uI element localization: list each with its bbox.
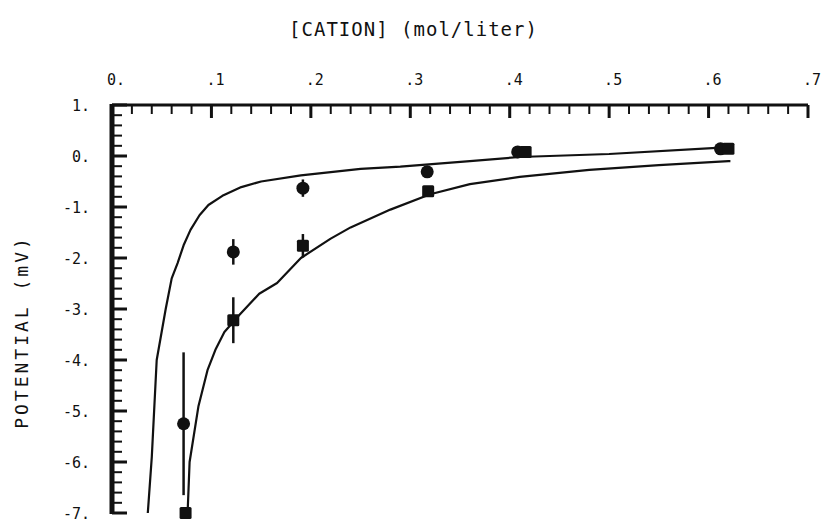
square-marker	[227, 314, 239, 326]
y-tick-label: 1.	[72, 97, 90, 115]
axes	[112, 104, 808, 514]
circle-marker	[177, 417, 190, 430]
x-tick-label: .4	[505, 71, 523, 89]
x-tick-label: .1	[206, 71, 224, 89]
circle-marker	[227, 245, 240, 258]
square-marker	[722, 143, 734, 155]
y-tick-label: -5.	[63, 403, 90, 421]
x-tick-label: .5	[604, 71, 622, 89]
y-tick-label: -1.	[63, 199, 90, 217]
square-marker	[180, 507, 192, 519]
x-tick-label: 0.	[107, 71, 125, 89]
y-tick-label: -4.	[63, 352, 90, 370]
y-tick-label: -2.	[63, 250, 90, 268]
circle-marker	[296, 182, 309, 195]
square-marker	[520, 146, 532, 158]
y-tick-label: -6.	[63, 454, 90, 472]
y-tick-labels: 1.0.-1.-2.-3.-4.-5.-6.-7.	[63, 97, 90, 523]
square-marker	[297, 240, 309, 252]
square-marker	[422, 185, 434, 197]
x-tick-labels: 0..1.2.3.4.5.6.7	[107, 71, 821, 89]
data-points	[177, 142, 734, 519]
x-tick-label: .6	[704, 71, 722, 89]
chart-plot: 0..1.2.3.4.5.6.7 1.0.-1.-2.-3.-4.-5.-6.-…	[0, 0, 827, 530]
x-tick-label: .2	[306, 71, 324, 89]
fit-curves	[148, 148, 731, 513]
y-tick-label: -3.	[63, 301, 90, 319]
circle-marker	[421, 165, 434, 178]
lower-fit-curve	[188, 161, 731, 513]
y-tick-label: -7.	[63, 505, 90, 523]
x-tick-label: .3	[405, 71, 423, 89]
y-tick-label: 0.	[72, 148, 90, 166]
x-tick-label: .7	[803, 71, 821, 89]
